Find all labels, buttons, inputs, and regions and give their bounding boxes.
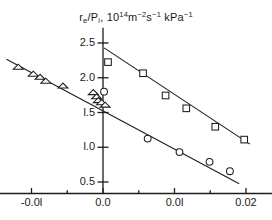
data-point-square — [241, 136, 248, 143]
data-point-square — [140, 70, 147, 77]
y-tick-label: l.5 — [39, 106, 95, 118]
data-point-circle — [227, 168, 234, 175]
data-point-circle — [206, 158, 213, 165]
y-tick-label: 2.5 — [39, 36, 95, 48]
data-point-circle — [144, 135, 151, 142]
data-point-square — [212, 123, 219, 130]
x-tick-label: 0.02 — [216, 196, 272, 208]
scatter-plot-figure: re/Pi, 1014m−2s−1 kPa−1 -0.0l0.00.0l0.02… — [0, 0, 272, 220]
y-tick-label: 2.0 — [39, 71, 95, 83]
data-point-square — [183, 105, 190, 112]
x-tick-label: -0.0l — [2, 196, 62, 208]
y-tick-label: 0.5 — [39, 175, 95, 187]
data-point-triangle — [58, 83, 68, 88]
x-tick-label: 0.0 — [73, 196, 133, 208]
data-point-square — [162, 92, 169, 99]
data-point-circle — [101, 88, 108, 95]
data-point-square — [105, 59, 112, 66]
data-point-triangle — [13, 64, 23, 69]
data-point-circle — [176, 149, 183, 156]
x-tick-label: 0.0l — [145, 196, 205, 208]
upper-fit — [104, 48, 250, 144]
y-tick-label: l.0 — [39, 140, 95, 152]
